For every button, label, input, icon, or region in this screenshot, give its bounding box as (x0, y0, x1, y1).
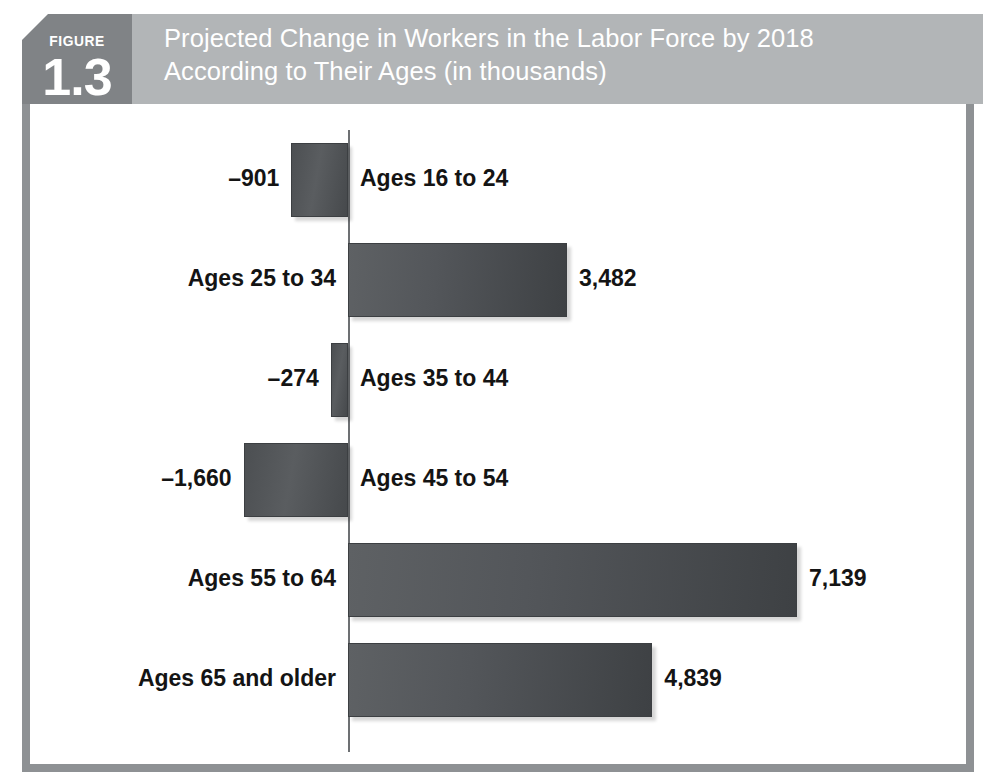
bar-value-label: 7,139 (809, 564, 867, 592)
figure-badge-word: FIGURE (26, 32, 127, 49)
bar-row: Ages 65 and older4,839 (30, 630, 966, 730)
figure-badge-number: 1.3 (22, 48, 132, 106)
bar-ages-45-to-54 (244, 443, 348, 517)
bar-row: Ages 25 to 343,482 (30, 230, 966, 330)
plot-area: Ages 16 to 24–901Ages 25 to 343,482Ages … (30, 112, 966, 764)
bar-row: Ages 45 to 54–1,660 (30, 430, 966, 530)
bar-ages-65-and-older (348, 643, 652, 717)
bar-value-label: –1,660 (161, 464, 231, 492)
bar-ages-16-to-24 (291, 143, 348, 217)
bar-value-label: –274 (268, 364, 319, 392)
bar-category-label: Ages 25 to 34 (188, 264, 336, 292)
bar-value-label: 4,839 (664, 664, 722, 692)
bar-category-label: Ages 45 to 54 (360, 464, 508, 492)
figure-number-badge: FIGURE 1.3 (22, 14, 132, 118)
bar-ages-25-to-34 (348, 243, 567, 317)
bar-row: Ages 55 to 647,139 (30, 530, 966, 630)
bar-category-label: Ages 55 to 64 (188, 564, 336, 592)
bar-ages-55-to-64 (348, 543, 797, 617)
bar-category-label: Ages 65 and older (138, 664, 336, 692)
bar-value-label: 3,482 (579, 264, 637, 292)
bar-row: Ages 35 to 44–274 (30, 330, 966, 430)
bar-row: Ages 16 to 24–901 (30, 130, 966, 230)
figure-container: Projected Change in Workers in the Labor… (0, 0, 999, 784)
bar-value-label: –901 (228, 164, 279, 192)
bar-ages-35-to-44 (331, 343, 348, 417)
bar-category-label: Ages 16 to 24 (360, 164, 508, 192)
figure-title: Projected Change in Workers in the Labor… (164, 22, 964, 88)
bar-category-label: Ages 35 to 44 (360, 364, 508, 392)
